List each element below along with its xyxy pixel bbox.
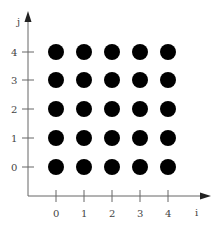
y-tick-label: 3 <box>11 75 17 86</box>
lattice-point <box>132 159 148 175</box>
lattice-point <box>76 44 92 60</box>
lattice-point <box>160 44 176 60</box>
lattice-point <box>76 159 92 175</box>
x-tick-label: 2 <box>109 208 115 219</box>
lattice-diagram: j i 4 3 2 1 0 0 1 2 3 4 <box>0 0 222 228</box>
x-tick-label: 1 <box>81 208 87 219</box>
lattice-point <box>160 130 176 146</box>
lattice-point <box>48 159 64 175</box>
lattice-point <box>132 72 148 88</box>
lattice-point <box>104 44 120 60</box>
x-axis-arrow-icon <box>200 193 211 200</box>
lattice-point <box>48 44 64 60</box>
y-axis-label: j <box>16 16 20 27</box>
y-tick-label: 1 <box>11 133 17 144</box>
lattice-point <box>132 44 148 60</box>
lattice-point <box>160 159 176 175</box>
lattice-point <box>104 101 120 117</box>
y-tick-label: 2 <box>11 104 17 115</box>
lattice-point <box>104 72 120 88</box>
lattice-points <box>48 44 176 175</box>
lattice-point <box>132 130 148 146</box>
y-axis-arrow-icon <box>25 11 32 22</box>
lattice-point <box>104 159 120 175</box>
lattice-point <box>48 72 64 88</box>
lattice-point <box>160 101 176 117</box>
lattice-point <box>132 101 148 117</box>
x-ticks: 0 1 2 3 4 <box>53 190 171 219</box>
x-tick-label: 4 <box>165 208 171 219</box>
lattice-point <box>48 101 64 117</box>
lattice-point <box>76 101 92 117</box>
lattice-point <box>160 72 176 88</box>
y-tick-label: 0 <box>11 162 17 173</box>
x-tick-label: 0 <box>53 208 59 219</box>
lattice-point <box>76 72 92 88</box>
lattice-point <box>76 130 92 146</box>
y-tick-label: 4 <box>11 47 17 58</box>
x-tick-label: 3 <box>137 208 143 219</box>
x-axis-label: i <box>195 207 198 218</box>
lattice-point <box>104 130 120 146</box>
y-ticks: 4 3 2 1 0 <box>11 47 34 173</box>
lattice-point <box>48 130 64 146</box>
